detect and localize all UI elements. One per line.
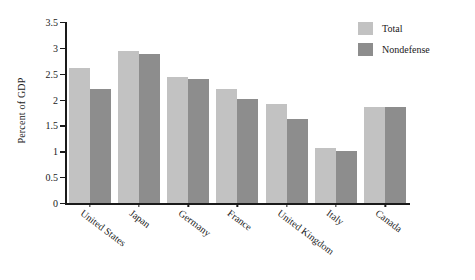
x-label-cell: Japan bbox=[114, 209, 163, 279]
bar-total bbox=[266, 104, 287, 203]
legend: Total Nondefense bbox=[358, 18, 430, 60]
legend-swatch-nondefense-icon bbox=[358, 43, 373, 56]
bar-nondefense bbox=[139, 54, 160, 203]
x-label-cell: Canada bbox=[361, 209, 410, 279]
x-label-cell: Germany bbox=[164, 209, 213, 279]
legend-label-total: Total bbox=[382, 23, 402, 34]
y-axis-label-text: Percent of GDP bbox=[16, 77, 27, 143]
bar-group bbox=[262, 22, 311, 203]
bar-total bbox=[167, 77, 188, 204]
y-tick-label: 0.5 bbox=[46, 172, 59, 183]
bar-nondefense bbox=[90, 89, 111, 203]
y-tick-label: 3 bbox=[53, 42, 58, 53]
bar-nondefense bbox=[385, 107, 406, 203]
bar-total bbox=[315, 148, 336, 204]
x-tick bbox=[286, 203, 287, 207]
legend-swatch-total-icon bbox=[358, 22, 373, 35]
x-axis-category-label: Germany bbox=[177, 207, 213, 238]
bar-group bbox=[114, 22, 163, 203]
x-axis-category-label: Italy bbox=[325, 207, 346, 227]
x-tick bbox=[138, 203, 139, 207]
bar-group bbox=[164, 22, 213, 203]
bar-total bbox=[364, 107, 385, 204]
bar-total bbox=[118, 51, 139, 203]
gdp-bar-chart: Percent of GDP 3.532.521.510.50 United S… bbox=[0, 0, 475, 280]
bar-total bbox=[69, 68, 90, 203]
x-axis-category-label: Japan bbox=[128, 207, 153, 229]
bar-group bbox=[311, 22, 360, 203]
y-tick-label: 1 bbox=[53, 146, 58, 157]
bar-total bbox=[216, 89, 237, 204]
y-tick-label: 3.5 bbox=[46, 17, 59, 28]
x-tick bbox=[335, 203, 336, 207]
legend-label-nondefense: Nondefense bbox=[382, 44, 430, 55]
legend-item-total: Total bbox=[358, 18, 430, 39]
y-axis-label: Percent of GDP bbox=[14, 60, 28, 160]
x-tick bbox=[188, 203, 189, 207]
bar-nondefense bbox=[188, 79, 209, 203]
x-axis-category-label: Canada bbox=[374, 207, 405, 234]
x-label-cell: United States bbox=[65, 209, 114, 279]
x-label-cell: United Kingdom bbox=[262, 209, 311, 279]
bar-nondefense bbox=[237, 99, 258, 203]
x-tick bbox=[89, 203, 90, 207]
y-tick-label: 1.5 bbox=[46, 120, 59, 131]
x-label-cell: France bbox=[213, 209, 262, 279]
bar-group bbox=[213, 22, 262, 203]
x-axis-category-label: France bbox=[226, 207, 254, 232]
x-axis-labels: United StatesJapanGermanyFranceUnited Ki… bbox=[65, 209, 410, 279]
x-tick bbox=[385, 203, 386, 207]
y-tick-label: 2 bbox=[53, 94, 58, 105]
bar-nondefense bbox=[287, 119, 308, 204]
y-tick-label: 2.5 bbox=[46, 68, 59, 79]
x-tick bbox=[237, 203, 238, 207]
y-tick-label: 0 bbox=[53, 198, 58, 209]
bar-group bbox=[65, 22, 114, 203]
legend-item-nondefense: Nondefense bbox=[358, 39, 430, 60]
bar-nondefense bbox=[336, 151, 357, 204]
x-label-cell: Italy bbox=[311, 209, 360, 279]
